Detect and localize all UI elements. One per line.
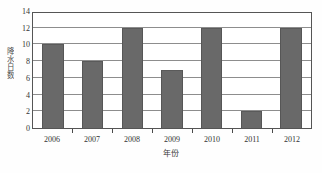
y-tick-label: 4	[13, 92, 30, 100]
bar	[280, 28, 301, 128]
x-axis-tick-labels: 2006200720082009201020112012	[32, 135, 312, 144]
bar-chart-figure: 降水日数 02468101214 20062007200820092010201…	[0, 0, 322, 173]
x-tick-mark	[152, 129, 153, 133]
x-tick-mark	[112, 129, 113, 133]
y-tick-label: 12	[13, 25, 30, 33]
x-tick-label: 2011	[232, 135, 272, 144]
bar-series	[33, 13, 311, 128]
bar-slot	[112, 13, 152, 128]
y-tick-label: 0	[13, 125, 30, 133]
x-axis-title: 年份	[0, 149, 322, 158]
x-axis-tick-marks	[32, 129, 312, 134]
bar	[82, 61, 103, 128]
y-tick-label: 8	[13, 58, 30, 66]
bar-slot	[152, 13, 192, 128]
y-axis-tick-labels: 02468101214	[13, 12, 30, 129]
x-tick-mark	[272, 129, 273, 133]
bar	[241, 111, 262, 128]
x-tick-label: 2010	[192, 135, 232, 144]
x-tick-mark	[232, 129, 233, 133]
bar-slot	[73, 13, 113, 128]
bar-slot	[33, 13, 73, 128]
x-tick-mark	[72, 129, 73, 133]
bar	[122, 28, 143, 128]
bar-slot	[192, 13, 232, 128]
bar	[201, 28, 222, 128]
x-tick-label: 2007	[72, 135, 112, 144]
bar-slot	[271, 13, 311, 128]
x-tick-label: 2006	[32, 135, 72, 144]
bar	[161, 70, 182, 129]
y-tick-label: 2	[13, 108, 30, 116]
bar	[42, 44, 63, 128]
x-tick-label: 2009	[152, 135, 192, 144]
x-tick-label: 2012	[272, 135, 312, 144]
y-tick-label: 6	[13, 75, 30, 83]
y-tick-label: 10	[13, 41, 30, 49]
plot-area	[32, 12, 312, 129]
y-tick-label: 14	[13, 8, 30, 16]
bar-slot	[232, 13, 272, 128]
x-tick-mark	[192, 129, 193, 133]
x-tick-label: 2008	[112, 135, 152, 144]
